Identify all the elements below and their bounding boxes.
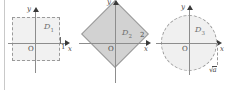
x-axis-line bbox=[156, 43, 218, 44]
left-border-rule bbox=[4, 0, 5, 90]
origin-label: O bbox=[182, 46, 188, 53]
region-label-d3: D3 bbox=[195, 26, 205, 36]
radius-label: √a bbox=[209, 66, 217, 74]
y-axis-label: y bbox=[27, 6, 31, 13]
y-axis-arrow-icon bbox=[187, 5, 193, 10]
region-subscript: 1 bbox=[50, 27, 54, 33]
region-subscript: 3 bbox=[201, 30, 205, 36]
panel-region-d3: y x O √a D3 bbox=[154, 0, 232, 90]
y-axis-line bbox=[35, 11, 36, 73]
x-axis-label: x bbox=[144, 46, 148, 53]
y-axis-line bbox=[115, 3, 116, 83]
x-axis-label: x bbox=[220, 46, 224, 53]
x-intercept-label: 2 bbox=[140, 32, 144, 39]
y-axis-label: y bbox=[107, 0, 111, 6]
panel-region-d2: y x O 2 D2 bbox=[78, 0, 154, 90]
y-axis-line bbox=[189, 9, 190, 75]
x-intercept-label: 1 bbox=[61, 44, 65, 51]
figure-container: y x O 1 D1 y x O 2 D2 y x O √a D3 bbox=[0, 0, 232, 90]
x-axis-line bbox=[8, 43, 66, 44]
y-axis-label: y bbox=[181, 4, 185, 11]
radicand: a bbox=[212, 66, 216, 74]
x-axis-label: x bbox=[68, 46, 72, 53]
x-axis-line bbox=[79, 43, 147, 44]
panel-region-d1: y x O 1 D1 bbox=[6, 0, 78, 90]
region-subscript: 2 bbox=[128, 33, 132, 39]
region-label-d2: D2 bbox=[122, 29, 132, 39]
y-axis-arrow-icon bbox=[113, 0, 119, 5]
region-label-d1: D1 bbox=[44, 23, 54, 33]
y-axis-arrow-icon bbox=[33, 7, 39, 12]
origin-label: O bbox=[108, 46, 114, 53]
origin-label: O bbox=[28, 46, 34, 53]
radius-drop-line bbox=[217, 43, 218, 65]
